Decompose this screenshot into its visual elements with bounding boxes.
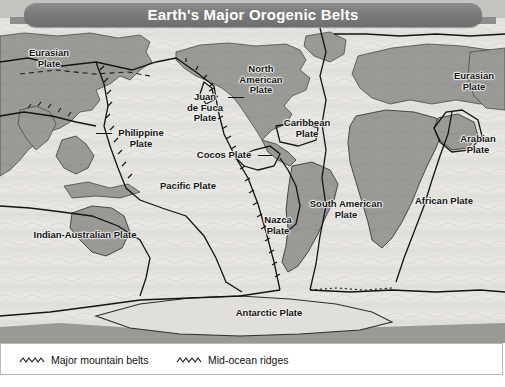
plate-label-antarctic: Antarctic Plate xyxy=(228,308,310,319)
plate-label-pacific: Pacific Plate xyxy=(150,181,226,192)
zigzag-line-icon xyxy=(19,355,45,365)
plate-label-arabian: Arabian Plate xyxy=(455,134,501,155)
zigzag-line-icon xyxy=(176,355,202,365)
plate-label-south-american: South American Plate xyxy=(305,199,387,220)
leader-line-juan-de-fuca xyxy=(228,97,244,98)
plate-label-eurasian-europe: Eurasian Plate xyxy=(448,71,500,92)
world-plate-map: Earth's Major Orogenic Belts Eurasian Pl… xyxy=(0,0,505,343)
plate-label-nazca: Nazca Plate xyxy=(258,215,298,236)
plate-label-philippine: Philippine Plate xyxy=(110,128,172,149)
title-banner: Earth's Major Orogenic Belts xyxy=(24,3,482,27)
legend-label-major-mountain-belts: Major mountain belts xyxy=(51,354,148,366)
legend-item-mid-ocean-ridges: Mid-ocean ridges xyxy=(176,352,289,368)
plate-label-juan-de-fuca: Juan de Fuca Plate xyxy=(181,92,229,124)
leader-line-cocos xyxy=(258,155,272,156)
plate-label-indian-australian: Indian-Australian Plate xyxy=(22,230,148,241)
plate-label-north-american: North American Plate xyxy=(232,64,290,96)
plate-label-african: African Plate xyxy=(408,196,480,207)
plate-label-cocos: Cocos Plate xyxy=(190,150,258,161)
plate-label-eurasian-asia: Eurasian Plate xyxy=(21,48,77,69)
plate-label-caribbean: Caribbean Plate xyxy=(278,118,336,139)
legend-label-mid-ocean-ridges: Mid-ocean ridges xyxy=(208,354,289,366)
legend-item-major-mountain-belts: Major mountain belts xyxy=(19,352,148,368)
orogenic-belts-figure: Earth's Major Orogenic Belts Eurasian Pl… xyxy=(0,0,505,387)
map-legend: Major mountain belts Mid-ocean ridges xyxy=(0,343,503,375)
figure-title: Earth's Major Orogenic Belts xyxy=(24,3,482,27)
